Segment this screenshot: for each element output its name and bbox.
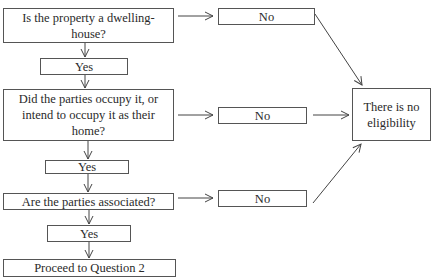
question-3-box: Are the parties associated?: [3, 193, 174, 210]
no-eligibility-box: There is no eligibility: [352, 88, 431, 141]
proceed-box: Proceed to Question 2: [3, 259, 176, 277]
no-2-box: No: [218, 107, 307, 124]
no-1-box: No: [218, 8, 315, 25]
yes-2-box: Yes: [45, 160, 129, 174]
question-2-box: Did the parties occupy it, or intend to …: [3, 89, 174, 141]
question-1-box: Is the property a dwelling-house?: [3, 8, 174, 43]
no-3-box: No: [218, 190, 307, 207]
yes-3-box: Yes: [47, 225, 131, 242]
yes-1-box: Yes: [40, 58, 128, 75]
